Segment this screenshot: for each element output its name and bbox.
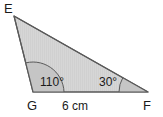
angle-label-30: 30°: [99, 75, 117, 89]
triangle-diagram: E G F 110° 30° 6 cm: [0, 0, 163, 117]
vertex-label-e: E: [4, 1, 13, 16]
vertex-label-g: G: [27, 98, 37, 113]
side-label-gf: 6 cm: [62, 99, 88, 113]
vertex-label-f: F: [143, 98, 151, 113]
angle-label-110: 110°: [40, 75, 64, 89]
